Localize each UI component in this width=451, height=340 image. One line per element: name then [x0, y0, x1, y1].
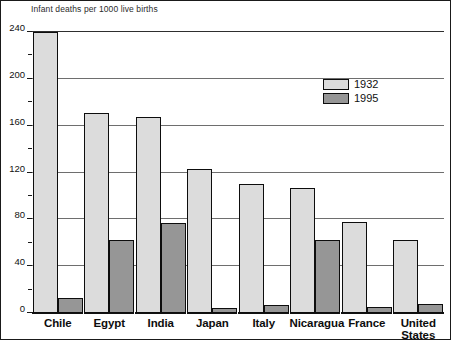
bar-chile-1932 — [33, 32, 58, 313]
bar-groups — [32, 32, 444, 313]
x-label-nicaragua: Nicaragua — [290, 317, 342, 340]
x-label-japan: Japan — [187, 317, 239, 340]
y-tick-label-0: 0 — [20, 303, 25, 314]
bar-italy-1995 — [264, 305, 289, 313]
bar-egypt-1932 — [84, 113, 109, 313]
bar-india-1932 — [136, 117, 161, 313]
bar-group — [238, 32, 290, 313]
x-label-united-states: United States — [393, 317, 445, 340]
legend-swatch-1995 — [323, 93, 349, 104]
x-axis-labels: ChileEgyptIndiaJapanItalyNicaraguaFrance… — [32, 317, 444, 340]
y-tick-label-80: 80 — [14, 209, 25, 220]
x-label-italy: Italy — [238, 317, 290, 340]
legend-label-1995: 1995 — [354, 92, 378, 104]
bar-united-states-1932 — [393, 240, 418, 313]
chart-axis-title: Infant deaths per 1000 live births — [31, 4, 158, 14]
bar-group — [341, 32, 393, 313]
chart-figure: Infant deaths per 1000 live births 04080… — [0, 0, 451, 340]
x-label-france: France — [341, 317, 393, 340]
bar-italy-1932 — [239, 184, 264, 313]
y-tick-label-120: 120 — [9, 162, 25, 173]
y-tick-label-160: 160 — [9, 115, 25, 126]
x-label-india: India — [135, 317, 187, 340]
legend-swatch-1932 — [323, 79, 349, 90]
bar-india-1995 — [161, 223, 186, 313]
bar-japan-1995 — [212, 308, 237, 313]
x-label-chile: Chile — [32, 317, 84, 340]
bar-group — [32, 32, 84, 313]
bar-chile-1995 — [58, 298, 83, 313]
y-tick-label-200: 200 — [9, 68, 25, 79]
bar-group — [393, 32, 445, 313]
bar-nicaragua-1995 — [315, 240, 340, 313]
legend-item-1995: 1995 — [323, 92, 378, 104]
legend: 19321995 — [323, 78, 378, 106]
bar-nicaragua-1932 — [290, 188, 315, 313]
bar-united-states-1995 — [418, 304, 443, 313]
bar-egypt-1995 — [109, 240, 134, 313]
bar-japan-1932 — [187, 169, 212, 313]
bar-group — [84, 32, 136, 313]
legend-item-1932: 1932 — [323, 78, 378, 90]
bar-group — [290, 32, 342, 313]
legend-label-1932: 1932 — [354, 78, 378, 90]
bar-france-1932 — [342, 222, 367, 313]
x-label-egypt: Egypt — [84, 317, 136, 340]
bar-group — [135, 32, 187, 313]
y-tick-label-40: 40 — [14, 256, 25, 267]
bar-group — [187, 32, 239, 313]
bar-france-1995 — [367, 307, 392, 313]
y-tick-label-240: 240 — [9, 22, 25, 33]
